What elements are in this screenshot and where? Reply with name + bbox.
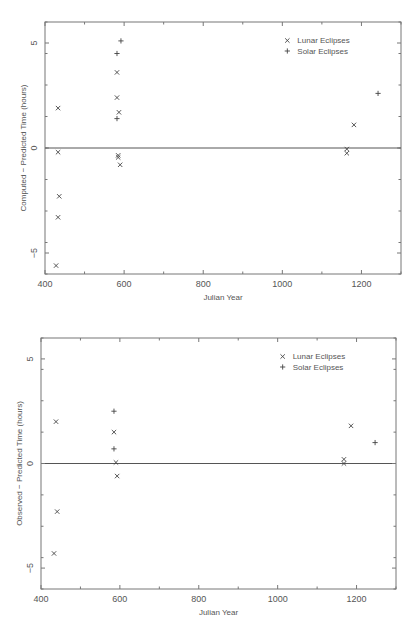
x-tick-label: 1000: [268, 594, 288, 604]
lunar-point-x-icon: [56, 150, 60, 154]
legend-solar-plus-icon: [285, 48, 290, 53]
solar-point-plus-icon: [111, 409, 116, 414]
solar-point-plus-icon: [375, 91, 380, 96]
lunar-point-x-icon: [56, 215, 60, 219]
legend-label: Lunar Eclipses: [297, 36, 349, 45]
x-tick-label: 600: [112, 594, 127, 604]
legend-lunar-x-icon: [280, 354, 284, 358]
lunar-point-x-icon: [52, 551, 56, 555]
x-tick-label: 800: [196, 279, 211, 289]
solar-point-plus-icon: [372, 440, 377, 445]
legend-label: Solar Eclipses: [293, 363, 344, 372]
x-axis-label: Julian Year: [199, 608, 238, 617]
x-tick-label: 400: [33, 594, 48, 604]
lunar-point-x-icon: [115, 474, 119, 478]
y-tick-label: 0: [25, 461, 35, 466]
x-tick-label: 1200: [347, 594, 367, 604]
lunar-point-x-icon: [54, 419, 58, 423]
x-axis-label: Julian Year: [203, 293, 242, 302]
lunar-point-x-icon: [342, 457, 346, 461]
x-tick-label: 600: [117, 279, 132, 289]
solar-point-plus-icon: [114, 51, 119, 56]
y-tick-label: 5: [29, 40, 39, 45]
y-axis-label: Observed − Predicted Time (hours): [15, 401, 24, 526]
lunar-point-x-icon: [56, 106, 60, 110]
y-axis-label: Computed − Predicted Time (hours): [19, 84, 28, 211]
y-tick-label: −5: [29, 248, 39, 258]
y-tick-label: −5: [25, 563, 35, 573]
lunar-point-x-icon: [349, 424, 353, 428]
lunar-point-x-icon: [115, 70, 119, 74]
lunar-point-x-icon: [118, 163, 122, 167]
legend-label: Solar Eclipses: [297, 47, 348, 56]
x-tick-label: 1000: [272, 279, 292, 289]
figure: 40060080010001200−505Julian YearComputed…: [0, 0, 419, 636]
lunar-point-x-icon: [352, 123, 356, 127]
y-tick-label: 0: [29, 145, 39, 150]
lunar-point-x-icon: [345, 151, 349, 155]
lunar-point-x-icon: [115, 95, 119, 99]
solar-point-plus-icon: [111, 446, 116, 451]
chart-2: 40060080010001200−505Julian YearObserved…: [15, 338, 396, 617]
solar-point-plus-icon: [114, 116, 119, 121]
legend-solar-plus-icon: [280, 364, 285, 369]
x-tick-label: 400: [37, 279, 52, 289]
x-tick-label: 800: [191, 594, 206, 604]
lunar-point-x-icon: [57, 194, 61, 198]
lunar-point-x-icon: [112, 430, 116, 434]
x-tick-label: 1200: [351, 279, 371, 289]
lunar-point-x-icon: [117, 110, 121, 114]
lunar-point-x-icon: [55, 509, 59, 513]
legend-label: Lunar Eclipses: [293, 352, 345, 361]
chart-1: 40060080010001200−505Julian YearComputed…: [19, 22, 401, 302]
y-tick-label: 5: [25, 356, 35, 361]
solar-point-plus-icon: [118, 38, 123, 43]
legend-lunar-x-icon: [285, 38, 289, 42]
lunar-point-x-icon: [54, 263, 58, 267]
